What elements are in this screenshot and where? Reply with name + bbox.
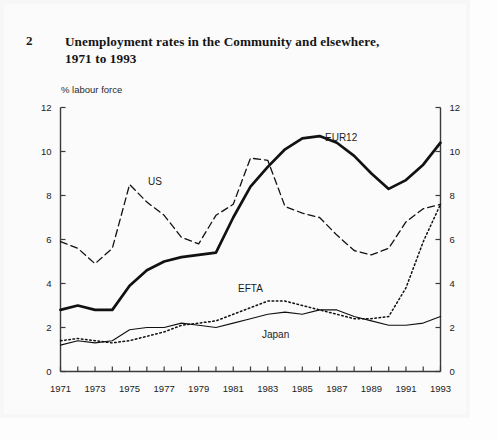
x-tick-label: 1979: [188, 383, 209, 394]
chart-series: [61, 136, 441, 345]
chart-axes: [61, 108, 441, 372]
y-tick-label-right: 0: [450, 366, 455, 377]
y-tick-label-right: 10: [450, 146, 461, 157]
y-tick-label-right: 2: [450, 322, 455, 333]
figure-page: 2 Unemployment rates in the Community an…: [0, 0, 497, 440]
x-tick-label: 1983: [257, 383, 278, 394]
y-tick-label-left: 6: [46, 234, 51, 245]
series-line-japan: [61, 310, 441, 345]
series-label-us: US: [148, 176, 162, 187]
y-tick-label-left: 8: [46, 190, 51, 201]
x-tick-label: 1977: [154, 383, 175, 394]
y-tick-label-right: 12: [450, 102, 461, 113]
y-tick-label-right: 8: [450, 190, 455, 201]
y-tick-label-left: 0: [46, 366, 51, 377]
series-label-eur12: EUR12: [325, 132, 358, 143]
y-tick-label-right: 4: [450, 278, 455, 289]
y-tick-label-left: 10: [41, 146, 52, 157]
series-line-efta: [61, 204, 441, 343]
x-tick-label: 1993: [430, 383, 451, 394]
x-tick-label: 1989: [361, 383, 382, 394]
unemployment-line-chart: 0022446688101012121971197319751977197919…: [0, 0, 497, 440]
y-tick-label-left: 4: [46, 278, 51, 289]
series-line-us: [61, 158, 441, 264]
x-tick-label: 1971: [50, 383, 71, 394]
x-tick-label: 1985: [292, 383, 313, 394]
series-label-efta: EFTA: [238, 283, 263, 294]
series-label-japan: Japan: [262, 329, 289, 340]
y-tick-label-left: 2: [46, 322, 51, 333]
x-tick-label: 1991: [395, 383, 416, 394]
y-tick-label-left: 12: [41, 102, 52, 113]
x-tick-label: 1987: [326, 383, 347, 394]
x-tick-label: 1981: [223, 383, 244, 394]
x-tick-label: 1973: [84, 383, 105, 394]
y-tick-label-right: 6: [450, 234, 455, 245]
chart-tick-labels: 0022446688101012121971197319751977197919…: [41, 102, 460, 393]
x-tick-label: 1975: [119, 383, 140, 394]
chart-series-annotations: USEUR12EFTAJapan: [148, 132, 358, 340]
